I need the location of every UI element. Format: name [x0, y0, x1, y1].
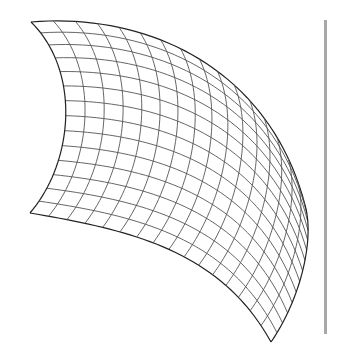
mesh-row-line [30, 213, 271, 342]
vertical-divider [324, 20, 327, 334]
mesh-lines [30, 21, 308, 342]
mesh-column-line [49, 21, 85, 216]
mesh-row-line [49, 44, 308, 221]
mesh-column-line [85, 24, 123, 224]
mesh-column-line [67, 21, 104, 219]
mesh-row-line [53, 175, 287, 313]
mesh-row-line [55, 58, 308, 231]
mesh-row-line [63, 86, 306, 250]
mesh-column-line [271, 205, 308, 342]
mesh-column-line [199, 85, 243, 265]
mesh-column-line [184, 71, 228, 257]
mesh-row-line [65, 131, 300, 282]
wireframe-surface [0, 0, 338, 356]
mesh-column-line [153, 49, 195, 243]
mesh-row-line [62, 146, 296, 292]
mesh-column-line [30, 22, 66, 213]
